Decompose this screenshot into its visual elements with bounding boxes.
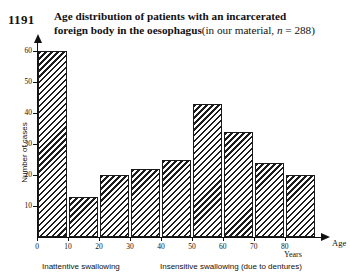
x-tick-label: 0 xyxy=(27,242,47,251)
y-tick-label: 50 xyxy=(16,77,32,86)
y-tick-label: 40 xyxy=(16,108,32,117)
bar xyxy=(131,169,160,237)
bar xyxy=(255,163,284,237)
bar xyxy=(38,51,67,237)
bar-chart: Number of cases Age Years 102030405060 0… xyxy=(0,0,350,279)
x-tick-label: 20 xyxy=(89,242,109,251)
x-tick-mark xyxy=(68,237,69,241)
x-tick-label: 10 xyxy=(58,242,78,251)
x-axis-line xyxy=(37,237,322,238)
bar xyxy=(286,175,315,237)
x-tick-mark xyxy=(161,237,162,241)
x-tick-label: 60 xyxy=(213,242,233,251)
y-tick-label: 10 xyxy=(16,201,32,210)
x-tick-label: 50 xyxy=(182,242,202,251)
annotation-inattentive-swallowing: Inattentive swallowing xyxy=(42,262,120,271)
annotation-insensitive-swallowing: Insensitive swallowing (due to dentures) xyxy=(160,262,302,271)
x-tick-label: 70 xyxy=(244,242,264,251)
x-tick-label: 30 xyxy=(120,242,140,251)
x-axis-arrow-icon xyxy=(321,233,330,241)
bar xyxy=(69,197,98,237)
x-tick-mark xyxy=(223,237,224,241)
x-tick-label: 80 xyxy=(275,242,295,251)
bar xyxy=(224,132,253,237)
x-tick-mark xyxy=(37,237,38,241)
x-tick-mark xyxy=(192,237,193,241)
x-tick-mark xyxy=(99,237,100,241)
y-tick-label: 60 xyxy=(16,46,32,55)
bar xyxy=(162,160,191,238)
bar xyxy=(193,104,222,237)
y-axis-arrow-icon xyxy=(34,34,42,43)
y-tick-label: 30 xyxy=(16,139,32,148)
x-axis-unit-label: Years xyxy=(284,250,302,259)
figure-page: 1191 Age distribution of patients with a… xyxy=(0,0,350,279)
bar xyxy=(100,175,129,237)
x-tick-label: 40 xyxy=(151,242,171,251)
x-tick-mark xyxy=(130,237,131,241)
x-axis-title: Age xyxy=(332,238,346,248)
x-tick-mark xyxy=(285,237,286,241)
x-tick-mark xyxy=(254,237,255,241)
y-tick-label: 20 xyxy=(16,170,32,179)
